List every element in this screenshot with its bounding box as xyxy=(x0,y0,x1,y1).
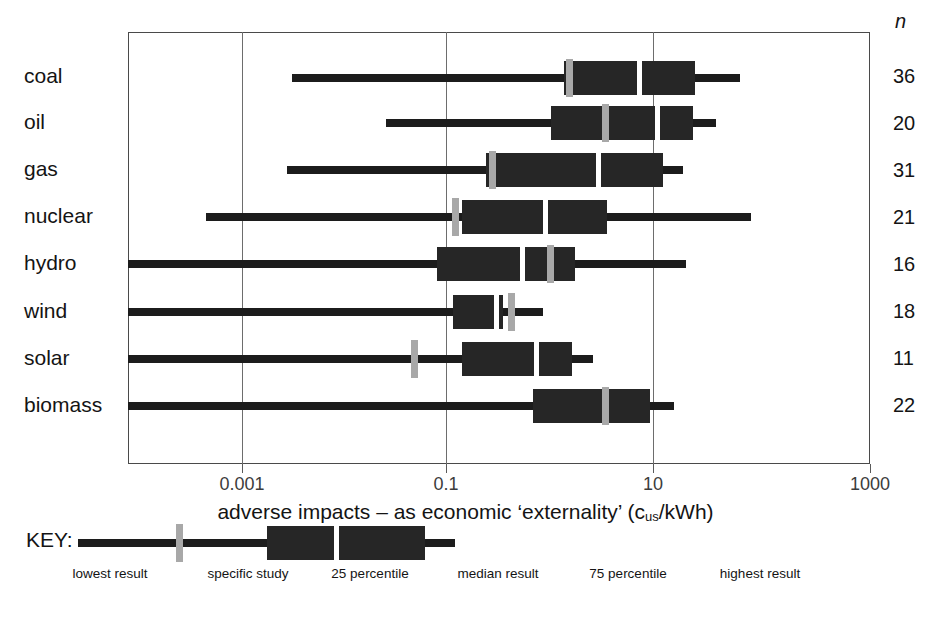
iqr-box-solar xyxy=(462,342,572,376)
tick-mark-10 xyxy=(653,464,654,473)
n-column-header: n xyxy=(895,10,906,33)
median-marker-coal xyxy=(637,61,642,95)
key-median-marker xyxy=(334,526,339,560)
iqr-box-biomass xyxy=(533,389,650,423)
iqr-box-hydro xyxy=(437,247,575,281)
tick-label-0.001: 0.001 xyxy=(219,474,264,495)
key-iqr-box xyxy=(267,526,425,560)
boxplot-coal xyxy=(0,55,931,101)
median-marker-solar xyxy=(534,342,539,376)
specific-study-marker-wind xyxy=(508,293,515,331)
tick-mark-0.1 xyxy=(446,464,447,473)
boxplot-hydro xyxy=(0,241,931,287)
key-label-75-percentile: 75 percentile xyxy=(589,566,666,581)
specific-study-marker-gas xyxy=(489,151,496,189)
key-specific-study-marker xyxy=(176,524,183,562)
specific-study-marker-hydro xyxy=(547,245,554,283)
specific-study-marker-biomass xyxy=(602,387,609,425)
median-marker-hydro xyxy=(520,247,525,281)
boxplot-nuclear xyxy=(0,194,931,240)
key-label-median-result: median result xyxy=(457,566,538,581)
boxplot-wind xyxy=(0,289,931,335)
chart-root: coal oil gas nuclear hydro wind solar bi… xyxy=(0,0,931,630)
tick-label-0.1: 0.1 xyxy=(433,474,458,495)
specific-study-marker-solar xyxy=(411,340,418,378)
median-marker-nuclear xyxy=(543,200,548,234)
tick-label-1000: 1000 xyxy=(850,474,890,495)
iqr-box-gas xyxy=(486,153,663,187)
tick-mark-0.001 xyxy=(242,464,243,473)
key-boxplot xyxy=(0,520,931,568)
iqr-box-oil xyxy=(551,106,693,140)
iqr-box-nuclear xyxy=(462,200,607,234)
key-label-highest-result: highest result xyxy=(720,566,800,581)
median-marker-gas xyxy=(596,153,601,187)
key-label-lowest-result: lowest result xyxy=(72,566,147,581)
iqr-box-coal xyxy=(564,61,695,95)
tick-mark-1000 xyxy=(870,464,871,473)
boxplot-gas xyxy=(0,147,931,193)
whisker-hydro xyxy=(128,260,686,268)
key-label-25-percentile: 25 percentile xyxy=(331,566,408,581)
tick-label-10: 10 xyxy=(643,474,663,495)
median-marker-wind xyxy=(494,295,499,329)
boxplot-oil xyxy=(0,100,931,146)
key-label-specific-study: specific study xyxy=(207,566,288,581)
specific-study-marker-oil xyxy=(602,104,609,142)
boxplot-biomass xyxy=(0,383,931,429)
boxplot-solar xyxy=(0,336,931,382)
specific-study-marker-coal xyxy=(566,59,573,97)
median-marker-oil xyxy=(655,106,660,140)
specific-study-marker-nuclear xyxy=(452,198,459,236)
